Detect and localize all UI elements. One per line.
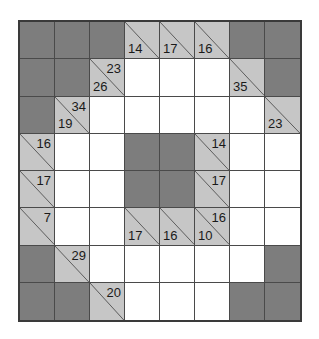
entry-cell-r4c2[interactable] [55,134,90,171]
block-cell-r8c8 [265,283,300,320]
clue-cell-r8c3: 20 [90,283,125,320]
entry-cell-r8c4[interactable] [125,283,160,320]
entry-cell-r7c3[interactable] [90,246,125,283]
block-cell-r1c1 [20,22,55,59]
block-cell-r1c3 [90,22,125,59]
block-cell-r8c2 [55,283,90,320]
entry-cell-r2c4[interactable] [125,59,160,96]
block-cell-r1c7 [230,22,265,59]
down-clue-r1c4: 14 [128,42,142,55]
block-cell-r1c8 [265,22,300,59]
entry-cell-r8c5[interactable] [160,283,195,320]
entry-cell-r6c3[interactable] [90,208,125,245]
entry-cell-r6c7[interactable] [230,208,265,245]
down-clue-r1c5: 17 [163,42,177,55]
down-clue-r6c6: 10 [198,229,212,242]
entry-cell-r6c8[interactable] [265,208,300,245]
down-clue-r6c5: 16 [163,229,177,242]
down-clue-r3c8: 23 [268,117,282,130]
entry-cell-r3c4[interactable] [125,97,160,134]
entry-cell-r2c6[interactable] [195,59,230,96]
entry-cell-r7c6[interactable] [195,246,230,283]
block-cell-r4c5 [160,134,195,171]
entry-cell-r5c7[interactable] [230,171,265,208]
entry-cell-r3c7[interactable] [230,97,265,134]
entry-cell-r3c3[interactable] [90,97,125,134]
down-clue-r2c7: 35 [233,80,247,93]
block-cell-r7c1 [20,246,55,283]
entry-cell-r5c2[interactable] [55,171,90,208]
entry-cell-r7c4[interactable] [125,246,160,283]
clue-cell-r6c6: 1610 [195,208,230,245]
entry-cell-r6c2[interactable] [55,208,90,245]
down-clue-r1c6: 16 [198,42,212,55]
across-clue-r8c3: 20 [107,286,121,299]
clue-cell-r6c4: 17 [125,208,160,245]
clue-cell-r1c6: 16 [195,22,230,59]
block-cell-r7c8 [265,246,300,283]
block-cell-r1c2 [55,22,90,59]
clue-cell-r4c6: 14 [195,134,230,171]
clue-cell-r5c1: 17 [20,171,55,208]
clue-cell-r2c3: 2326 [90,59,125,96]
clue-cell-r1c5: 17 [160,22,195,59]
entry-cell-r2c5[interactable] [160,59,195,96]
block-cell-r5c5 [160,171,195,208]
across-clue-r7c2: 29 [72,249,86,262]
entry-cell-r5c3[interactable] [90,171,125,208]
clue-cell-r3c2: 3419 [55,97,90,134]
across-clue-r6c1: 7 [44,211,51,224]
block-cell-r3c1 [20,97,55,134]
entry-cell-r7c5[interactable] [160,246,195,283]
entry-cell-r4c8[interactable] [265,134,300,171]
down-clue-r2c3: 26 [93,80,107,93]
across-clue-r4c6: 14 [212,137,226,150]
clue-cell-r4c1: 16 [20,134,55,171]
kakuro-grid: 141716232635341923161417177171616102920 [18,20,302,322]
clue-cell-r6c5: 16 [160,208,195,245]
across-clue-r3c2: 34 [72,100,86,113]
down-clue-r6c4: 17 [128,229,142,242]
across-clue-r5c6: 17 [212,174,226,187]
across-clue-r6c6: 16 [212,211,226,224]
entry-cell-r3c6[interactable] [195,97,230,134]
entry-cell-r4c7[interactable] [230,134,265,171]
clue-cell-r3c8: 23 [265,97,300,134]
block-cell-r5c4 [125,171,160,208]
across-clue-r5c1: 17 [37,174,51,187]
clue-cell-r7c2: 29 [55,246,90,283]
block-cell-r8c7 [230,283,265,320]
clue-cell-r6c1: 7 [20,208,55,245]
block-cell-r2c8 [265,59,300,96]
across-clue-r2c3: 23 [107,62,121,75]
block-cell-r2c1 [20,59,55,96]
entry-cell-r7c7[interactable] [230,246,265,283]
clue-cell-r1c4: 14 [125,22,160,59]
entry-cell-r4c3[interactable] [90,134,125,171]
across-clue-r4c1: 16 [37,137,51,150]
entry-cell-r5c8[interactable] [265,171,300,208]
clue-cell-r2c7: 35 [230,59,265,96]
entry-cell-r8c6[interactable] [195,283,230,320]
block-cell-r2c2 [55,59,90,96]
entry-cell-r3c5[interactable] [160,97,195,134]
block-cell-r8c1 [20,283,55,320]
down-clue-r3c2: 19 [58,117,72,130]
kakuro-puzzle: 141716232635341923161417177171616102920 [0,0,319,339]
clue-cell-r5c6: 17 [195,171,230,208]
block-cell-r4c4 [125,134,160,171]
